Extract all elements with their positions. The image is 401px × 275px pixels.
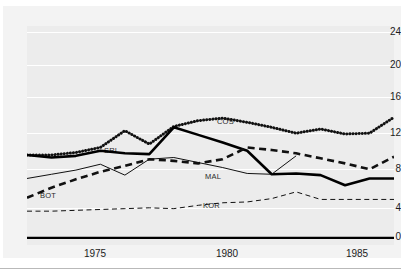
x-tick-1975: 1975 [75,249,115,259]
chart-figure: 24 20 16 12 8 4 0 1975 1980 1985 COS SRI… [0,0,401,275]
series-path-cos [27,117,394,155]
series-paths [27,117,394,211]
figure-bottom-rule [0,268,401,269]
figure-left-edge [0,6,3,258]
x-tick-1985: 1985 [337,249,377,259]
series-lines-layer [27,20,394,239]
series-path-kor [27,192,394,211]
x-tick-1980: 1980 [207,249,247,259]
